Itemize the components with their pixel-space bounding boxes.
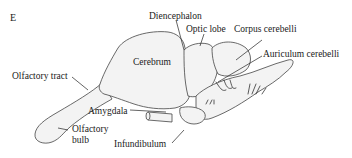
- label-infundibulum: Infundibulum: [114, 139, 166, 150]
- cerebrum-shape: [99, 32, 190, 109]
- label-corpus-cerebelli: Corpus cerebelli: [234, 24, 297, 35]
- label-auriculum-cerebelli: Auriculum cerebelli: [263, 49, 339, 60]
- corpus-cerebelli-shape: [212, 42, 251, 76]
- optic-nerve-shape: [148, 112, 172, 122]
- label-cerebrum: Cerebrum: [133, 57, 171, 68]
- brain-diagram: E Diencephalon Optic lobe Corpus cerebel…: [0, 0, 352, 158]
- label-optic-lobe: Optic lobe: [186, 24, 226, 35]
- label-amygdala: Amygdala: [88, 106, 128, 117]
- label-olfactory-bulb-line2: bulb: [72, 135, 89, 146]
- label-diencephalon: Diencephalon: [149, 11, 202, 22]
- leader-olfactory-tract: [72, 77, 88, 90]
- panel-letter: E: [10, 12, 16, 23]
- label-olfactory-tract: Olfactory tract: [12, 71, 68, 82]
- label-olfactory-bulb-line1: Olfactory: [72, 124, 108, 135]
- leader-infundibulum: [172, 130, 184, 143]
- optic-nerve-end: [146, 112, 150, 120]
